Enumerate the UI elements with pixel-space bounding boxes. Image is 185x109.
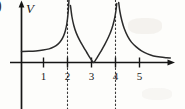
tick-label-x2: 2 (62, 71, 74, 82)
curve-branch-3 (119, 3, 171, 58)
tick-label-x3: 3 (86, 71, 98, 82)
y-axis-label: V (26, 2, 34, 15)
tick-label-x5: 5 (134, 71, 146, 82)
figure-container: ) V 1 2 3 4 5 (0, 0, 185, 109)
y-axis-arrowhead (19, 1, 25, 8)
curve-branch-2 (70, 4, 116, 63)
tick-label-x1: 1 (38, 71, 50, 82)
tick-label-x4: 4 (110, 71, 122, 82)
graph-svg (0, 0, 185, 109)
x-axis-arrowhead (168, 59, 176, 65)
